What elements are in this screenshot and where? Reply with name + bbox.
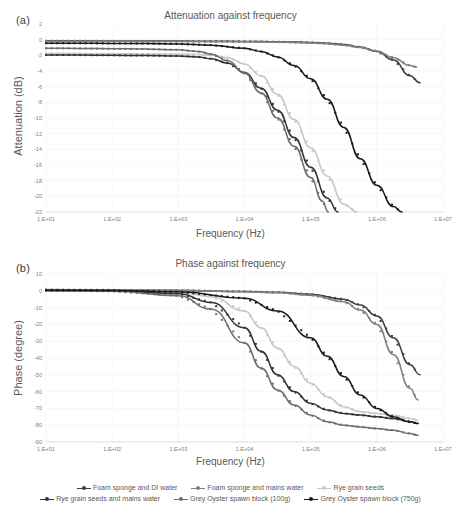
y-tick-label: -90	[34, 439, 42, 445]
legend-item[interactable]: Rye grain seeds and mains water	[40, 495, 160, 503]
series-marker	[380, 330, 382, 332]
series-marker	[278, 292, 280, 294]
series-marker	[102, 54, 104, 56]
series-marker	[209, 58, 211, 60]
series-marker	[204, 306, 206, 308]
series-marker	[334, 299, 336, 301]
y-tick-label: -18	[34, 178, 42, 184]
series-marker	[136, 290, 138, 292]
series-marker	[249, 335, 251, 337]
series-marker	[357, 308, 359, 310]
series-marker	[85, 47, 87, 49]
y-tick-label: -20	[34, 193, 42, 199]
series-marker	[357, 46, 359, 48]
series-marker	[85, 42, 87, 44]
series-marker	[374, 181, 376, 183]
series-marker	[204, 300, 206, 302]
series-marker	[164, 53, 166, 55]
series-marker	[278, 375, 280, 377]
series-marker	[119, 40, 121, 42]
legend-item[interactable]: Grey Oyster spawn block (750g)	[304, 495, 420, 503]
series-marker	[175, 49, 177, 51]
series-marker	[414, 78, 416, 80]
series-line	[46, 53, 357, 212]
series-marker	[317, 388, 319, 390]
series-marker	[215, 55, 217, 57]
series-marker	[141, 43, 143, 45]
series-marker	[312, 80, 314, 82]
series-marker	[170, 43, 172, 45]
series-marker	[226, 46, 228, 48]
series-marker	[141, 292, 143, 294]
series-marker	[96, 42, 98, 44]
y-tick-label: -20	[34, 321, 42, 327]
series-marker	[397, 417, 399, 419]
series-marker	[96, 40, 98, 42]
series-marker	[79, 42, 81, 44]
series-marker	[181, 291, 183, 293]
series-marker	[272, 292, 274, 294]
series-marker	[283, 59, 285, 61]
series-marker	[295, 293, 297, 295]
series-marker	[192, 290, 194, 292]
series-marker	[278, 56, 280, 58]
series-marker	[221, 57, 223, 59]
legend-label: Grey Oyster spawn block (100g)	[190, 495, 290, 503]
phase-panel: (b) Phase against frequency Phase (degre…	[0, 252, 461, 480]
legend-item[interactable]: Foam sponge and mains water	[191, 484, 303, 492]
series-marker	[340, 424, 342, 426]
series-marker	[255, 359, 257, 361]
series-marker	[56, 289, 58, 291]
legend-item[interactable]: Foam sponge and DI water	[77, 484, 177, 492]
series-line	[46, 48, 328, 212]
series-line	[46, 43, 402, 212]
series-marker	[90, 42, 92, 44]
series-marker	[323, 352, 325, 354]
series-marker	[238, 322, 240, 324]
series-marker	[79, 289, 81, 291]
series-marker	[306, 75, 308, 77]
legend-item[interactable]: Grey Oyster spawn block (100g)	[174, 495, 290, 503]
series-marker	[238, 41, 240, 43]
y-tick-label: -14	[34, 146, 42, 152]
y-tick-label: -30	[34, 338, 42, 344]
series-marker	[209, 41, 211, 43]
series-marker	[255, 302, 257, 304]
series-marker	[244, 63, 246, 65]
series-marker	[215, 313, 217, 315]
series-marker	[397, 430, 399, 432]
series-marker	[351, 305, 353, 307]
series-marker	[329, 397, 331, 399]
series-marker	[323, 191, 325, 193]
y-tick-label: -12	[34, 131, 42, 137]
series-marker	[244, 291, 246, 293]
series-marker	[238, 336, 240, 338]
series-marker	[153, 290, 155, 292]
series-marker	[300, 149, 302, 151]
legend-item[interactable]: Rye grain seeds	[317, 484, 384, 492]
y-tick-label: -70	[34, 405, 42, 411]
series-marker	[272, 308, 274, 310]
series-marker	[340, 412, 342, 414]
series-marker	[295, 42, 297, 44]
series-marker	[170, 40, 172, 42]
legend-label: Foam sponge and mains water	[207, 484, 303, 492]
series-marker	[283, 354, 285, 356]
series-marker	[306, 160, 308, 162]
series-marker	[68, 289, 70, 291]
series-marker	[238, 47, 240, 49]
series-marker	[164, 43, 166, 45]
series-marker	[278, 111, 280, 113]
series-marker	[102, 42, 104, 44]
series-marker	[158, 43, 160, 45]
series-marker	[266, 306, 268, 308]
series-marker	[175, 291, 177, 293]
series-marker	[90, 48, 92, 50]
series-marker	[153, 48, 155, 50]
series-marker	[124, 40, 126, 42]
series-marker	[96, 48, 98, 50]
x-tick-label: 1.E+01	[37, 216, 55, 222]
series-marker	[380, 189, 382, 191]
series-marker	[397, 59, 399, 61]
series-marker	[312, 403, 314, 405]
